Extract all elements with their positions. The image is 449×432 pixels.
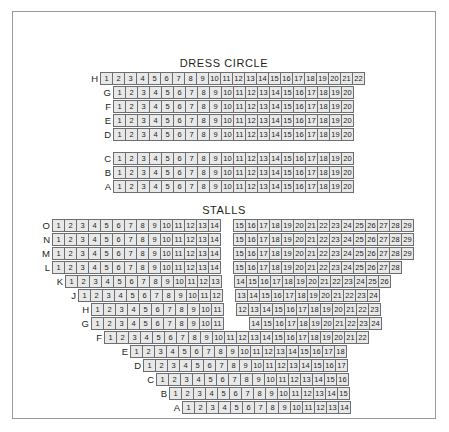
seat[interactable]: 20 (341, 166, 354, 179)
row-label: M (38, 247, 50, 260)
seat-row: H1234567891011121314151617181920212223 (38, 303, 435, 316)
seat-row: O123456789101112131415161718192021222324… (38, 219, 435, 232)
seat[interactable]: 14 (208, 219, 221, 232)
row-label: F (90, 331, 102, 344)
dress-circle-rows: H12345678910111213141516171819202122G123… (13, 72, 435, 193)
row-label: J (64, 289, 76, 302)
seat[interactable]: 11 (211, 303, 224, 316)
row-label: H (77, 303, 89, 316)
row-label: E (116, 345, 128, 358)
seat-block: 151617181920212223242526272829 (233, 233, 413, 246)
seat-row: H12345678910111213141516171819202122 (86, 72, 435, 85)
row-label: O (38, 219, 50, 232)
stalls-rows: O123456789101112131415161718192021222324… (13, 219, 435, 414)
seat-block: 1234567891011121314151617181920 (113, 114, 353, 127)
seat[interactable]: 24 (369, 317, 382, 330)
row-group: C1234567891011121314151617181920B1234567… (86, 152, 435, 193)
seat-row: G12345678910111415161718192021222324 (38, 317, 435, 330)
row-label: F (99, 100, 111, 113)
seat[interactable]: 11 (211, 317, 224, 330)
row-group-spacer (86, 142, 435, 152)
seat[interactable]: 28 (389, 261, 402, 274)
seat-block: 12345678910111213141516171819202122 (104, 331, 368, 344)
seat-row: A1234567891011121314151617181920 (86, 180, 435, 193)
seat[interactable]: 18 (334, 345, 347, 358)
seat-row: E1234567891011121314151617181920 (86, 114, 435, 127)
seat[interactable]: 17 (335, 359, 348, 372)
seat-row: B1234567891011121314151617181920 (86, 166, 435, 179)
seat-block: 12345678910111213141516171819202122 (100, 72, 364, 85)
row-label: B (99, 166, 111, 179)
row-label: H (86, 72, 98, 85)
seat-block: 12345678910111213 (65, 275, 221, 288)
seat[interactable]: 16 (336, 373, 349, 386)
seat-row: F1234567891011121314151617181920 (86, 100, 435, 113)
seat[interactable]: 29 (401, 247, 414, 260)
seat-block: 1234567891011121314 (52, 233, 220, 246)
seating-plan-frame: DRESS CIRCLE H12345678910111213141516171… (12, 11, 436, 419)
row-label: E (99, 114, 111, 127)
seat[interactable]: 23 (368, 303, 381, 316)
seat[interactable]: 26 (378, 275, 391, 288)
seat-row: D1234567891011121314151617181920 (86, 128, 435, 141)
seat-row: C12345678910111213141516 (38, 373, 435, 386)
seat-row: L123456789101112131415161718192021222324… (38, 261, 435, 274)
row-group: O123456789101112131415161718192021222324… (38, 219, 435, 414)
seat[interactable]: 20 (341, 114, 354, 127)
row-label: B (155, 387, 167, 400)
seat[interactable]: 22 (356, 331, 369, 344)
seat[interactable]: 12 (210, 289, 223, 302)
seat[interactable]: 13 (209, 275, 222, 288)
seat[interactable]: 20 (341, 100, 354, 113)
seat-block: 1415161718192021222324 (249, 317, 381, 330)
seat[interactable]: 20 (341, 180, 354, 193)
seat-block: 1234567891011121314151617181920 (113, 180, 353, 193)
row-label: A (99, 180, 111, 193)
row-label: A (168, 401, 180, 414)
seat-row: K123456789101112131415161718192021222324… (38, 275, 435, 288)
seat-block: 1234567891011121314151617 (143, 359, 347, 372)
seat-row: J123456789101112131415161718192021222324 (38, 289, 435, 302)
seat-block: 1234567891011 (91, 303, 223, 316)
dress-circle-title: DRESS CIRCLE (13, 57, 435, 69)
row-label: D (99, 128, 111, 141)
dress-circle-section: DRESS CIRCLE H12345678910111213141516171… (13, 57, 435, 193)
seat-row: N123456789101112131415161718192021222324… (38, 233, 435, 246)
seat-block: 131415161718192021222324 (235, 289, 379, 302)
row-label: K (51, 275, 63, 288)
seat[interactable]: 14 (208, 261, 221, 274)
seat[interactable]: 24 (367, 289, 380, 302)
seat[interactable]: 29 (401, 233, 414, 246)
seat-block: 1234567891011121314151617181920 (113, 86, 353, 99)
seat-block: 12345678910111213141516 (156, 373, 348, 386)
row-label: C (142, 373, 154, 386)
seat[interactable]: 29 (401, 219, 414, 232)
seat-block: 123456789101112131415 (169, 387, 349, 400)
seat-row: A1234567891011121314 (38, 401, 435, 414)
seat[interactable]: 14 (338, 401, 351, 414)
seat-block: 151617181920212223242526272829 (233, 219, 413, 232)
seat-block: 1516171819202122232425262728 (233, 261, 401, 274)
seat[interactable]: 22 (352, 72, 365, 85)
seat[interactable]: 15 (337, 387, 350, 400)
seat[interactable]: 20 (341, 86, 354, 99)
seat[interactable]: 20 (341, 152, 354, 165)
row-label: D (129, 359, 141, 372)
seat-block: 123456789101112 (78, 289, 222, 302)
seat-row: B123456789101112131415 (38, 387, 435, 400)
seat-row: D1234567891011121314151617 (38, 359, 435, 372)
seat[interactable]: 14 (208, 247, 221, 260)
seat-row: E123456789101112131415161718 (38, 345, 435, 358)
row-label: G (99, 86, 111, 99)
row-label: C (99, 152, 111, 165)
row-label: G (77, 317, 89, 330)
row-group: H12345678910111213141516171819202122G123… (86, 72, 435, 141)
seat-block: 1234567891011121314151617181920 (113, 128, 353, 141)
seat-block: 1234567891011121314 (52, 261, 220, 274)
seat-row: C1234567891011121314151617181920 (86, 152, 435, 165)
seat-block: 1234567891011121314 (182, 401, 350, 414)
stalls-title: STALLS (13, 204, 435, 216)
seat-row: G1234567891011121314151617181920 (86, 86, 435, 99)
seat[interactable]: 14 (208, 233, 221, 246)
seat[interactable]: 20 (341, 128, 354, 141)
